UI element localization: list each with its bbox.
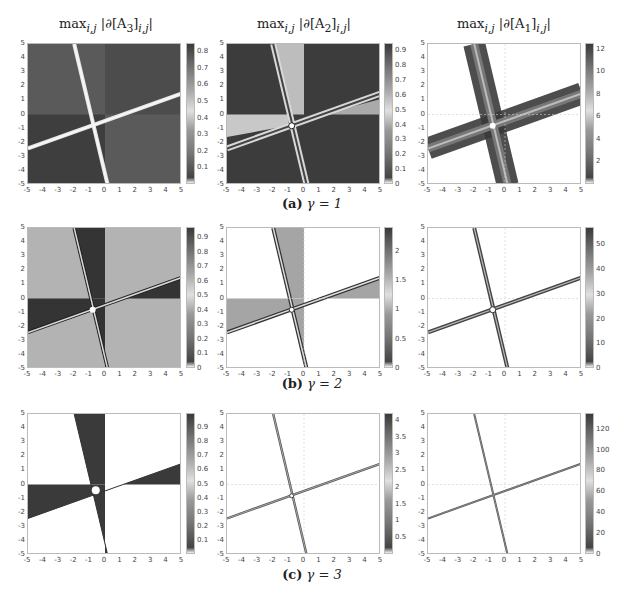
x-tick-label: 5 — [575, 556, 587, 564]
x-tick-label: 0 — [498, 556, 510, 564]
x-tick-label: -2 — [266, 556, 278, 564]
x-tick-label: -1 — [483, 556, 495, 564]
x-tick-label: 1 — [113, 556, 125, 564]
x-tick-label: -4 — [36, 370, 48, 378]
y-tick-label: -4 — [212, 536, 224, 544]
y-tick-label: 2 — [413, 451, 425, 459]
x-tick-label: -4 — [436, 370, 448, 378]
y-tick-label: 4 — [13, 237, 25, 245]
y-tick-label: 3 — [413, 67, 425, 75]
x-tick-label: -3 — [251, 186, 263, 194]
y-tick-label: 1 — [212, 95, 224, 103]
y-tick-label: -4 — [212, 166, 224, 174]
x-tick-label: 4 — [560, 370, 572, 378]
y-tick-label: 5 — [212, 39, 224, 47]
heatmap-a-a1 — [427, 43, 581, 184]
y-tick-label: 2 — [13, 265, 25, 273]
x-tick-label: -3 — [452, 556, 464, 564]
y-tick-label: -4 — [13, 350, 25, 358]
x-tick-label: -1 — [83, 370, 95, 378]
y-tick-label: 2 — [413, 81, 425, 89]
y-tick-label: 0 — [212, 480, 224, 488]
x-tick-label: -3 — [452, 370, 464, 378]
colorbar-tick-label: 10 — [596, 67, 618, 75]
y-tick-label: -4 — [13, 536, 25, 544]
x-tick-label: 5 — [175, 370, 187, 378]
y-tick-label: 4 — [13, 53, 25, 61]
y-tick-label: -3 — [13, 336, 25, 344]
y-tick-label: 4 — [212, 237, 224, 245]
heatmap-a-a3 — [27, 43, 181, 184]
y-tick-label: 0 — [212, 294, 224, 302]
y-tick-label: -1 — [413, 494, 425, 502]
y-tick-label: -3 — [413, 152, 425, 160]
y-tick-label: -4 — [13, 166, 25, 174]
x-tick-label: 1 — [513, 186, 525, 194]
y-tick-label: -1 — [13, 494, 25, 502]
y-tick-label: 0 — [413, 294, 425, 302]
x-tick-label: 1 — [513, 370, 525, 378]
x-tick-label: 0 — [98, 370, 110, 378]
x-tick-label: -1 — [282, 186, 294, 194]
heatmap-c-a1 — [427, 413, 581, 554]
y-tick-label: -2 — [413, 322, 425, 330]
x-tick-label: 2 — [328, 186, 340, 194]
x-tick-label: -5 — [21, 186, 33, 194]
colorbar-b-a3 — [186, 227, 195, 368]
x-tick-label: -4 — [235, 556, 247, 564]
x-tick-label: 3 — [544, 370, 556, 378]
x-tick-label: 2 — [129, 370, 141, 378]
x-tick-label: -5 — [21, 370, 33, 378]
colorbar-a-a2 — [384, 43, 393, 184]
colorbar-b-a2 — [384, 227, 393, 368]
y-tick-label: 1 — [413, 95, 425, 103]
x-tick-label: -4 — [36, 186, 48, 194]
y-tick-label: 4 — [413, 53, 425, 61]
y-tick-label: 3 — [212, 437, 224, 445]
x-tick-label: 5 — [575, 186, 587, 194]
colorbar-tick-label: 2 — [596, 157, 618, 165]
x-tick-label: -2 — [67, 186, 79, 194]
x-tick-label: 4 — [359, 556, 371, 564]
y-tick-label: -4 — [212, 350, 224, 358]
y-tick-label: 4 — [13, 423, 25, 431]
column-title-a2: maxi,j |∂[A2]i,j| — [204, 16, 404, 35]
x-tick-label: 2 — [529, 556, 541, 564]
y-tick-label: 4 — [413, 423, 425, 431]
y-tick-label: -2 — [212, 322, 224, 330]
x-tick-label: -4 — [235, 186, 247, 194]
colorbar-tick-label: 60 — [596, 487, 618, 495]
x-tick-label: -2 — [467, 370, 479, 378]
x-tick-label: -3 — [52, 556, 64, 564]
y-tick-label: 2 — [13, 81, 25, 89]
x-tick-label: 3 — [144, 370, 156, 378]
x-tick-label: -4 — [36, 556, 48, 564]
x-tick-label: -1 — [483, 370, 495, 378]
x-tick-label: 1 — [312, 186, 324, 194]
colorbar-c-a2 — [384, 413, 393, 554]
x-tick-label: 3 — [144, 186, 156, 194]
caption-a: (a) γ = 1 — [212, 196, 412, 211]
y-tick-label: 3 — [413, 251, 425, 259]
colorbar-tick-label: 4 — [596, 135, 618, 143]
colorbar-tick-label: 8 — [596, 90, 618, 98]
y-tick-label: 5 — [212, 409, 224, 417]
y-tick-label: 0 — [413, 110, 425, 118]
y-tick-label: -3 — [413, 522, 425, 530]
y-tick-label: 5 — [413, 39, 425, 47]
x-tick-label: 2 — [529, 370, 541, 378]
heatmap-b-a1 — [427, 227, 581, 368]
x-tick-label: 1 — [113, 370, 125, 378]
colorbar-tick-label: 0 — [596, 364, 618, 372]
y-tick-label: -1 — [13, 124, 25, 132]
x-tick-label: -2 — [467, 186, 479, 194]
x-tick-label: 2 — [129, 186, 141, 194]
x-tick-label: 2 — [328, 556, 340, 564]
colorbar-tick-label: 20 — [596, 529, 618, 537]
x-tick-label: 4 — [560, 186, 572, 194]
y-tick-label: 3 — [212, 251, 224, 259]
y-tick-label: 5 — [13, 409, 25, 417]
x-tick-label: 2 — [129, 556, 141, 564]
y-tick-label: 3 — [13, 437, 25, 445]
colorbar-a-a1 — [585, 43, 594, 184]
